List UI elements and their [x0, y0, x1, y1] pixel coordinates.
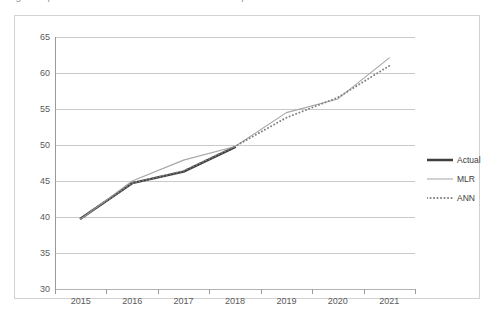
- y-axis-label-30: 30: [40, 284, 50, 294]
- legend-item-ann[interactable]: ANN: [427, 188, 495, 207]
- legend-item-mlr[interactable]: MLR: [427, 169, 495, 188]
- chart-legend: ActualMLRANN: [427, 150, 495, 207]
- y-axis-label-45: 45: [40, 176, 50, 186]
- y-axis-label-50: 50: [40, 140, 50, 150]
- series-line-ann: [81, 66, 390, 219]
- series-line-mlr: [81, 58, 390, 219]
- x-axis-label-2015: 2015: [71, 296, 91, 306]
- y-axis-label-40: 40: [40, 212, 50, 222]
- x-axis-label-2019: 2019: [276, 296, 296, 306]
- series-lines: [55, 37, 415, 289]
- x-axis-tick-1: [106, 289, 107, 294]
- x-axis-label-2021: 2021: [379, 296, 399, 306]
- x-axis-label-2020: 2020: [328, 296, 348, 306]
- y-axis-label-55: 55: [40, 104, 50, 114]
- legend-label-mlr: MLR: [457, 174, 475, 184]
- x-axis-label-2018: 2018: [225, 296, 245, 306]
- x-axis-tick-3: [209, 289, 210, 294]
- y-axis-label-35: 35: [40, 248, 50, 258]
- y-axis-label-60: 60: [40, 68, 50, 78]
- plot-area: 3035404550556065 20152016201720182019202…: [55, 37, 415, 289]
- legend-label-actual: Actual: [457, 155, 481, 165]
- x-axis-tick-5: [312, 289, 313, 294]
- legend-item-actual[interactable]: Actual: [427, 150, 495, 169]
- x-axis-tick-7: [415, 289, 416, 294]
- legend-swatch-actual-icon: [427, 155, 453, 165]
- chart-frame: 3035404550556065 20152016201720182019202…: [14, 15, 480, 299]
- figure-caption: Fig. Comparison of actual values with ML…: [8, 0, 314, 2]
- y-axis-label-65: 65: [40, 32, 50, 42]
- gridline-30: [55, 289, 415, 290]
- x-axis-tick-4: [261, 289, 262, 294]
- x-axis-tick-2: [158, 289, 159, 294]
- legend-label-ann: ANN: [457, 193, 475, 203]
- x-axis-label-2016: 2016: [122, 296, 142, 306]
- legend-swatch-ann-icon: [427, 193, 453, 203]
- x-axis-tick-0: [55, 289, 56, 294]
- x-axis-label-2017: 2017: [174, 296, 194, 306]
- legend-swatch-mlr-icon: [427, 174, 453, 184]
- x-axis-tick-6: [364, 289, 365, 294]
- figure-caption-strip: Fig. Comparison of actual values with ML…: [0, 0, 495, 14]
